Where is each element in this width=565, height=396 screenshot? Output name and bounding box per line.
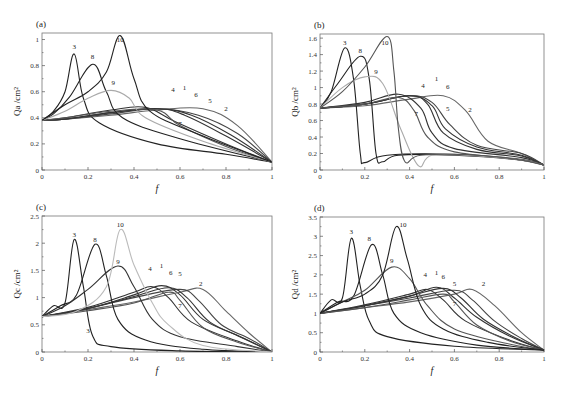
y-axis-label: Qb /cm² bbox=[290, 87, 300, 117]
y-tick-label: 0 bbox=[36, 167, 40, 175]
panel-label: (b) bbox=[314, 20, 325, 30]
x-tick-label: 0.4 bbox=[405, 355, 414, 363]
curve-label-9: 9 bbox=[374, 68, 378, 76]
x-tick-label: 0 bbox=[40, 355, 44, 363]
y-tick-label: 0.4 bbox=[30, 114, 39, 122]
x-tick-label: 1 bbox=[270, 355, 274, 363]
series-line-3 bbox=[320, 238, 544, 350]
y-tick-label: 1 bbox=[36, 36, 40, 44]
panel-label: (a) bbox=[36, 19, 46, 29]
y-tick-label: 0.2 bbox=[308, 150, 317, 158]
x-axis-label: f bbox=[431, 183, 435, 194]
curve-label-6: 6 bbox=[169, 269, 173, 277]
curve-label-1: 1 bbox=[435, 75, 439, 83]
y-tick-label: 1.2 bbox=[308, 68, 317, 76]
y-tick-label: 0.6 bbox=[30, 88, 39, 96]
panel-label: (d) bbox=[314, 203, 325, 213]
curve-label-7: 7 bbox=[178, 302, 182, 310]
curve-label-1: 1 bbox=[435, 269, 439, 277]
curve-label-8: 8 bbox=[93, 236, 97, 244]
y-tick-label: 0.8 bbox=[308, 101, 317, 109]
y-tick-label: 0.8 bbox=[30, 62, 39, 70]
curve-label-4: 4 bbox=[424, 271, 428, 279]
curve-label-3: 3 bbox=[86, 327, 90, 335]
curve-label-7: 7 bbox=[453, 300, 457, 308]
y-tick-label: 3.5 bbox=[308, 214, 317, 222]
curve-label-7: 7 bbox=[178, 120, 182, 128]
x-axis-label: f bbox=[156, 183, 160, 194]
curve-label-10: 10 bbox=[117, 36, 125, 44]
y-tick-label: 1.5 bbox=[30, 267, 39, 275]
x-tick-label: 0.6 bbox=[176, 355, 185, 363]
curve-label-9: 9 bbox=[112, 79, 116, 87]
curve-label-9: 9 bbox=[116, 258, 120, 266]
y-tick-label: 0 bbox=[314, 349, 318, 357]
curve-label-3: 3 bbox=[72, 43, 76, 51]
curve-label-4: 4 bbox=[421, 82, 425, 90]
curve-label-5: 5 bbox=[453, 280, 457, 288]
curve-label-2: 2 bbox=[199, 280, 203, 288]
x-tick-label: 0.2 bbox=[84, 355, 93, 363]
y-tick-label: 2 bbox=[314, 271, 318, 279]
curve-label-5: 5 bbox=[178, 270, 182, 278]
curve-label-3: 3 bbox=[72, 231, 76, 239]
series-line-10 bbox=[320, 36, 544, 165]
y-tick-label: 1 bbox=[36, 294, 40, 302]
y-tick-label: 2 bbox=[36, 240, 40, 248]
y-axis-label: Qc /cm² bbox=[12, 269, 22, 298]
chart-panel-d: (d)00.20.40.60.8100.511.522.533.5fQd /cm… bbox=[290, 203, 546, 376]
x-tick-label: 1 bbox=[542, 173, 546, 181]
y-tick-label: 1 bbox=[314, 84, 318, 92]
curve-label-5: 5 bbox=[446, 105, 450, 113]
x-tick-label: 0.4 bbox=[130, 173, 139, 181]
x-tick-label: 0.4 bbox=[405, 173, 414, 181]
series-line-9 bbox=[320, 267, 544, 350]
x-tick-label: 1 bbox=[542, 355, 546, 363]
y-tick-label: 1.6 bbox=[308, 35, 317, 43]
curve-label-1: 1 bbox=[183, 84, 187, 92]
panel-label: (c) bbox=[36, 202, 46, 212]
curve-label-6: 6 bbox=[194, 91, 198, 99]
curve-label-4: 4 bbox=[148, 265, 152, 273]
plot-frame bbox=[42, 216, 272, 352]
x-tick-label: 0.4 bbox=[130, 355, 139, 363]
x-tick-label: 0.2 bbox=[360, 355, 369, 363]
curve-label-6: 6 bbox=[441, 273, 445, 281]
curve-label-7: 7 bbox=[415, 110, 419, 118]
y-tick-label: 3 bbox=[314, 233, 318, 241]
chart-panel-c: (c)00.20.40.60.8100.511.522.5fQc /cm²381… bbox=[12, 202, 274, 376]
chart-panel-a: (a)00.20.40.60.8100.20.40.60.81fQa /cm²3… bbox=[12, 19, 274, 194]
y-tick-label: 1.5 bbox=[308, 291, 317, 299]
curve-label-2: 2 bbox=[468, 106, 472, 114]
x-tick-label: 0.6 bbox=[176, 173, 185, 181]
figure-four-panel-line-charts: (a)00.20.40.60.8100.20.40.60.81fQa /cm²3… bbox=[0, 0, 565, 396]
x-tick-label: 0 bbox=[318, 355, 322, 363]
y-tick-label: 0.4 bbox=[308, 134, 317, 142]
x-axis-label: f bbox=[156, 365, 160, 376]
x-axis-label: f bbox=[431, 365, 435, 376]
y-tick-label: 0.2 bbox=[30, 140, 39, 148]
x-tick-label: 0.2 bbox=[84, 173, 93, 181]
y-tick-label: 1 bbox=[314, 310, 318, 318]
x-tick-label: 0.6 bbox=[450, 355, 459, 363]
y-tick-label: 0.5 bbox=[308, 329, 317, 337]
x-tick-label: 0.8 bbox=[495, 355, 504, 363]
curve-label-10: 10 bbox=[117, 221, 125, 229]
y-axis-label: Qa /cm² bbox=[12, 87, 22, 116]
curve-label-8: 8 bbox=[368, 235, 372, 243]
y-tick-label: 0 bbox=[36, 349, 40, 357]
curve-label-10: 10 bbox=[381, 39, 389, 47]
y-tick-label: 2.5 bbox=[308, 252, 317, 260]
curve-label-3: 3 bbox=[350, 228, 354, 236]
curve-label-5: 5 bbox=[208, 97, 212, 105]
curve-label-2: 2 bbox=[482, 280, 486, 288]
y-tick-label: 0.6 bbox=[308, 117, 317, 125]
x-tick-label: 0 bbox=[318, 173, 322, 181]
y-tick-label: 2.5 bbox=[30, 213, 39, 221]
series-line-9 bbox=[42, 266, 272, 352]
x-tick-label: 1 bbox=[270, 173, 274, 181]
curve-label-1: 1 bbox=[160, 262, 164, 270]
series-line-3 bbox=[42, 54, 272, 162]
curve-label-3: 3 bbox=[343, 39, 347, 47]
chart-panel-b: (b)00.20.40.60.8100.20.40.60.811.21.41.6… bbox=[290, 20, 546, 194]
